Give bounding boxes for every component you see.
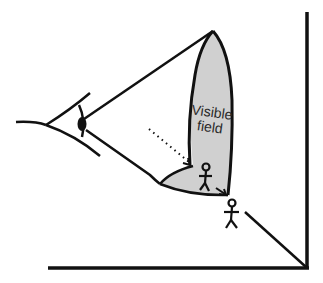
eye-icon xyxy=(16,93,100,156)
person-outside-field-icon xyxy=(224,200,239,229)
ground-line xyxy=(245,212,306,267)
dotted-arrow xyxy=(149,129,190,165)
cone-lower-line xyxy=(86,130,160,184)
diagram-drawing xyxy=(0,0,323,283)
visible-field-diagram: Visible field xyxy=(0,0,323,283)
